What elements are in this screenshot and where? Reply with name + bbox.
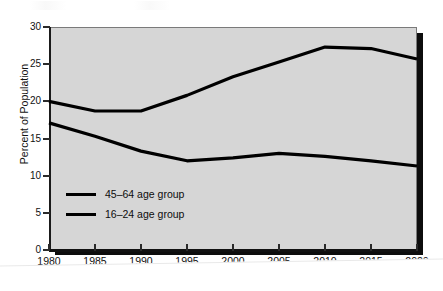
legend-line-swatch-icon xyxy=(66,213,96,216)
y-tick-label-text: 30 xyxy=(3,22,41,32)
x-tick-label: 1995 xyxy=(164,255,210,267)
y-tick-label-text: 0 xyxy=(3,245,41,255)
line-chart-figure: 051015202530 198019851990199520002005201… xyxy=(0,0,443,291)
x-tick-label: 1980 xyxy=(26,255,72,267)
legend-line-swatch-icon xyxy=(66,193,96,196)
x-tick-label: 2010 xyxy=(302,255,348,267)
x-tick-label-text: 2000 xyxy=(210,255,256,267)
x-tick-label-text: 2020 xyxy=(394,255,440,267)
x-tick-label-text: 1990 xyxy=(118,255,164,267)
x-tick-label-text: 1995 xyxy=(164,255,210,267)
chart-legend: 45–64 age group 16–24 age group xyxy=(66,184,256,224)
x-tick-label-text: 2005 xyxy=(256,255,302,267)
y-axis-title: Percent of Population xyxy=(18,44,30,184)
legend-label: 16–24 age group xyxy=(105,208,184,220)
x-tick-label: 2000 xyxy=(210,255,256,267)
x-tick-label-text: 2015 xyxy=(348,255,394,267)
legend-item-45-64: 45–64 age group xyxy=(66,184,256,204)
y-tick-label-text: 5 xyxy=(3,208,41,218)
y-tick-label: 0 xyxy=(0,245,41,255)
x-tick-label-text: 1985 xyxy=(72,255,118,267)
legend-item-16-24: 16–24 age group xyxy=(66,204,256,224)
x-tick-label: 2015 xyxy=(348,255,394,267)
x-tick-label: 2005 xyxy=(256,255,302,267)
y-tick-label: 30 xyxy=(0,22,41,32)
series-line-16-24 xyxy=(49,123,417,166)
legend-label: 45–64 age group xyxy=(105,188,184,200)
x-tick-label: 1990 xyxy=(118,255,164,267)
x-tick-label: 2020 xyxy=(394,255,440,267)
x-tick-label: 1985 xyxy=(72,255,118,267)
y-tick-label: 5 xyxy=(0,208,41,218)
series-line-45-64 xyxy=(49,47,417,111)
x-tick-label-text: 2010 xyxy=(302,255,348,267)
cropped-caption-artifact xyxy=(30,1,290,10)
x-tick-label-text: 1980 xyxy=(26,255,72,267)
x-axis-title: Year xyxy=(49,271,418,283)
